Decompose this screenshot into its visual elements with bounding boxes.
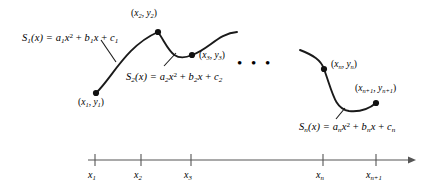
point-label-1: (x1, y1) <box>78 98 104 108</box>
equation-label-s1: S1(x) = a1x2 + b1x + c1 <box>22 33 118 45</box>
point-label-n: (xn, yn) <box>331 60 357 70</box>
diagram-canvas <box>0 0 427 191</box>
axis-tick-label-2: x2 <box>134 170 142 182</box>
point-label-3: (x3, y3) <box>199 51 225 61</box>
knot-point-n-plus-1 <box>373 100 379 106</box>
spline-diagram-figure: S1(x) = a1x2 + b1x + c1 S2(x) = a2x2 + b… <box>0 0 427 191</box>
knot-point-3 <box>189 52 195 58</box>
equation-label-sn: Sn(x) = anx2 + bnx + cn <box>299 122 395 134</box>
point-label-2: (x2, y2) <box>131 9 157 19</box>
equation-label-s2: S2(x) = a2x2 + b2x + c2 <box>126 72 222 84</box>
ellipsis-label: • • • <box>237 55 273 72</box>
knot-point-n <box>321 66 327 72</box>
axis-tick-label-3: x3 <box>184 170 192 182</box>
axis-tick-label-n: xn <box>316 170 324 182</box>
axis-arrowhead-icon <box>408 157 416 164</box>
point-label-n-plus-1: (xn+1, yn+1) <box>355 84 396 94</box>
axis-tick-label-n-plus-1: xn+1 <box>366 170 382 182</box>
leader-line-sn <box>336 108 345 119</box>
axis-tick-label-1: x1 <box>88 170 96 182</box>
knot-point-2 <box>155 29 161 35</box>
leader-line-s2 <box>164 53 176 66</box>
knot-point-1 <box>93 90 99 96</box>
